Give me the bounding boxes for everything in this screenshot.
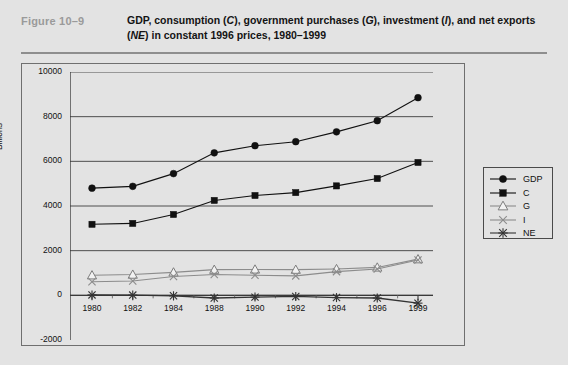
data-point-marker xyxy=(169,291,178,300)
legend-label: C xyxy=(523,188,530,198)
legend-label: GDP xyxy=(523,174,543,184)
legend-label: G xyxy=(523,201,530,211)
y-tick-label: 2000 xyxy=(20,245,62,255)
data-point-marker xyxy=(373,294,382,303)
data-point-marker xyxy=(88,290,97,299)
figure-number: Figure 10–9 xyxy=(21,15,84,27)
data-point-marker xyxy=(211,149,218,156)
y-tick-label: 4000 xyxy=(20,200,62,210)
x-tick-label: 1984 xyxy=(154,303,194,313)
data-point-marker xyxy=(500,189,507,196)
data-point-marker xyxy=(499,175,506,182)
legend-marker-filled-circle-icon xyxy=(488,172,520,186)
x-tick-label: 1988 xyxy=(194,303,234,313)
data-point-marker xyxy=(374,175,380,181)
figure-header: Figure 10–9 GDP, consumption (C), govern… xyxy=(0,0,568,56)
data-point-marker xyxy=(89,185,96,192)
header-divider xyxy=(21,52,547,54)
x-tick-label: 1992 xyxy=(276,303,316,313)
data-point-marker xyxy=(291,292,300,301)
series-gdp xyxy=(89,94,422,191)
x-tick-label: 1980 xyxy=(72,303,112,313)
plot-area: 1000080006000400020000-20001980198219841… xyxy=(70,72,451,340)
data-point-marker xyxy=(292,138,299,145)
legend-marker-filled-square-icon xyxy=(488,186,520,200)
y-tick-label: 0 xyxy=(20,289,62,299)
data-point-marker xyxy=(128,291,137,300)
y-axis-title: Billions xyxy=(0,123,4,150)
legend-label: I xyxy=(523,215,526,225)
y-tick-label: 10000 xyxy=(20,66,62,76)
legend-item-i: I xyxy=(488,213,552,227)
y-tick-label: 8000 xyxy=(20,111,62,121)
series-c xyxy=(89,159,421,227)
legend-label: NE xyxy=(523,228,536,238)
data-point-marker xyxy=(130,220,136,226)
data-point-marker xyxy=(415,159,421,165)
data-point-marker xyxy=(415,94,422,101)
data-point-marker xyxy=(498,228,507,237)
data-point-marker xyxy=(210,294,219,303)
data-point-marker xyxy=(333,128,340,135)
x-tick-label: 1990 xyxy=(235,303,275,313)
chart-legend: GDPCGINE xyxy=(483,167,553,239)
x-tick-label: 1982 xyxy=(113,303,153,313)
figure-container: Figure 10–9 GDP, consumption (C), govern… xyxy=(0,0,568,365)
legend-item-gdp: GDP xyxy=(488,172,552,186)
data-point-marker xyxy=(413,255,422,263)
data-point-marker xyxy=(252,142,259,149)
data-point-marker xyxy=(333,183,339,189)
data-point-marker xyxy=(332,293,341,302)
x-tick-label: 1994 xyxy=(317,303,357,313)
chart-svg xyxy=(70,72,451,340)
data-point-marker xyxy=(293,190,299,196)
data-point-marker xyxy=(252,192,258,198)
y-tick-label: 6000 xyxy=(20,155,62,165)
legend-item-ne: NE xyxy=(488,226,552,240)
y-tick-label: -2000 xyxy=(20,334,62,344)
legend-item-g: G xyxy=(488,199,552,213)
data-point-marker xyxy=(129,183,136,190)
x-tick-label: 1999 xyxy=(398,303,438,313)
x-tick-label: 1996 xyxy=(357,303,397,313)
data-point-marker xyxy=(89,221,95,227)
data-point-marker xyxy=(251,293,260,302)
data-point-marker xyxy=(170,211,176,217)
data-point-marker xyxy=(170,170,177,177)
legend-marker-cross-x-icon xyxy=(488,213,520,227)
legend-marker-open-triangle-icon xyxy=(488,199,520,213)
legend-item-c: C xyxy=(488,186,552,200)
figure-title: GDP, consumption (C), government purchas… xyxy=(127,13,547,42)
data-point-marker xyxy=(374,117,381,124)
legend-marker-asterisk-icon xyxy=(488,226,520,240)
data-point-marker xyxy=(211,197,217,203)
